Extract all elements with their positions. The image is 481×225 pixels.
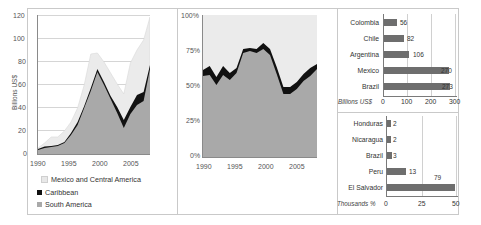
gridline [455, 14, 456, 96]
left-ytick-120: 120 [13, 12, 25, 19]
middle-area-series-svg [203, 15, 317, 158]
bar-top-unit-label: Billions US$ [338, 98, 372, 105]
bar-chart-bottom: Honduras Nicaragua Brazil Peru El Salvad… [337, 114, 459, 215]
bar-bottom-xtick-50: 50 [452, 200, 460, 207]
bar-label-argentina: Argentina [339, 51, 379, 58]
bar-top-xtick-200: 200 [425, 98, 436, 105]
middle-plot-area [203, 15, 317, 158]
bar-value-brazil: 3 [393, 152, 397, 159]
mid-y-axis-line [202, 15, 203, 158]
left-ytick-40: 40 [18, 104, 26, 111]
bar-bottom-xtick-0: 0 [384, 200, 388, 207]
bar-brazil [384, 83, 450, 90]
left-x-axis-line [37, 154, 150, 155]
bar-peru [387, 168, 406, 175]
left-xtick-1995: 1995 [61, 160, 77, 167]
bar-top-y-axis [383, 14, 384, 96]
bar-label-colombia: Colombia [339, 19, 379, 26]
mid-xtick-1990: 1990 [196, 163, 212, 170]
left-axis-label-billions: Billions US$ [11, 75, 18, 110]
right-panel-divider [338, 112, 458, 113]
mid-xtick-2000: 2000 [258, 163, 274, 170]
mid-xtick-1995: 1995 [227, 163, 243, 170]
bar-value-honduras: 2 [393, 120, 397, 127]
mid-ytick-75: 75% [186, 47, 200, 54]
bar-bottom-unit-label: Thousands % [337, 200, 376, 207]
mid-ytick-25: 25% [186, 117, 200, 124]
mid-xtick-2005: 2005 [289, 163, 305, 170]
bar-value-brazil: 273 [442, 83, 453, 90]
bar-bottom-xtick-25: 25 [418, 200, 426, 207]
bar-label-brazil: Brazil [339, 83, 379, 90]
bar-value-mexico: 270 [441, 67, 452, 74]
bar-top-x-axis [383, 96, 457, 97]
bar-argentina [384, 51, 409, 58]
bar-label-nicaragua: Nicaragua [337, 136, 383, 143]
bar-label-honduras: Honduras [337, 120, 383, 127]
left-ytick-100: 100 [13, 35, 25, 42]
left-area-series-svg [38, 15, 150, 155]
legend-swatch-icon [37, 202, 42, 207]
bar-chart-top: Colombia Chile Argentina Mexico Brazil 5… [337, 8, 459, 112]
bar-honduras [387, 120, 391, 127]
bar-chile [384, 35, 404, 42]
bar-el-salvador [387, 184, 455, 191]
bar-brazil [387, 152, 392, 159]
bar-label-peru: Peru [337, 168, 383, 175]
legend-swatch-icon [37, 190, 42, 195]
legend-item-mexico-central-america: Mexico and Central America [41, 175, 141, 184]
figure-canvas: 120 100 80 60 40 20 0 Billions US$ 1990 … [0, 0, 481, 225]
left-ytick-60: 60 [18, 81, 26, 88]
bar-label-brazil: Brazil [337, 152, 383, 159]
legend-label: Mexico and Central America [51, 175, 141, 184]
left-ytick-80: 80 [18, 58, 26, 65]
bar-label-mexico: Mexico [339, 67, 379, 74]
bar-label-el-salvador: El Salvador [336, 184, 383, 191]
gridline [456, 116, 457, 196]
left-xtick-2000: 2000 [92, 160, 108, 167]
left-ytick-0: 0 [23, 150, 27, 157]
bar-mexico [384, 67, 449, 74]
legend-item-caribbean: Caribbean [37, 188, 78, 197]
mid-x-axis-line [202, 157, 317, 158]
bar-nicaragua [387, 136, 391, 143]
bar-value-nicaragua: 2 [393, 136, 397, 143]
mid-ytick-100: 100% [181, 12, 199, 19]
left-plot-area [38, 15, 150, 155]
left-xtick-1990: 1990 [30, 160, 46, 167]
bar-value-colombia: 56 [400, 19, 407, 26]
legend-label: South America [45, 200, 92, 209]
mid-ytick-50: 50% [186, 82, 200, 89]
bar-value-peru: 13 [409, 168, 416, 175]
legend-label: Caribbean [45, 188, 78, 197]
legend-swatch-icon [41, 176, 48, 183]
left-ytick-20: 20 [18, 127, 26, 134]
bar-top-xtick-0: 0 [381, 98, 385, 105]
legend-item-south-america: South America [37, 200, 92, 209]
bar-bottom-x-axis [386, 196, 458, 197]
mid-ytick-0: 0% [190, 152, 200, 159]
bar-value-argentina: 106 [413, 51, 424, 58]
bar-top-xtick-300: 300 [449, 98, 460, 105]
left-xtick-2005: 2005 [123, 160, 139, 167]
bar-label-chile: Chile [339, 35, 379, 42]
left-y-axis-line [37, 15, 38, 155]
bar-colombia [384, 19, 397, 26]
bar-bottom-y-axis [386, 116, 387, 196]
bar-top-xtick-100: 100 [401, 98, 412, 105]
bar-value-chile: 82 [407, 35, 414, 42]
bar-value-el-salvador: 79 [434, 174, 441, 181]
